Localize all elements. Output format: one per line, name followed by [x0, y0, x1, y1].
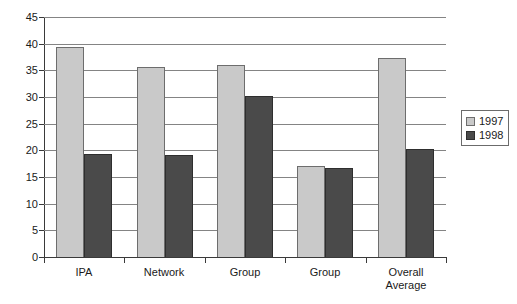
- y-tick-mark-5: [39, 230, 44, 231]
- chart-legend: 19971998: [461, 110, 509, 146]
- legend-item-1998: 1998: [466, 128, 503, 142]
- bar-1997-1: [137, 67, 165, 258]
- bar-1997-4: [378, 58, 406, 258]
- y-tick-label-0: 0: [4, 252, 38, 263]
- bar-chart: 051015202530354045 IPANetworkGroupGroupO…: [0, 0, 517, 304]
- x-tick-mark-0: [44, 257, 45, 263]
- y-tick-label-25: 25: [4, 119, 38, 130]
- legend-swatch-icon-1997: [466, 117, 475, 126]
- x-axis-label-0: IPA: [44, 266, 124, 279]
- y-tick-label-30: 30: [4, 92, 38, 103]
- y-tick-label-40: 40: [4, 39, 38, 50]
- y-tick-label-5: 5: [4, 225, 38, 236]
- x-tick-mark-1: [124, 257, 125, 263]
- y-tick-label-20: 20: [4, 145, 38, 156]
- x-axis-label-1: Network: [124, 266, 204, 279]
- bar-1997-2: [217, 65, 245, 258]
- y-tick-label-10: 10: [4, 199, 38, 210]
- x-tick-mark-5: [446, 257, 447, 263]
- y-tick-label-15: 15: [4, 172, 38, 183]
- y-tick-label-35: 35: [4, 65, 38, 76]
- x-axis-label-4: Overall Average: [366, 266, 446, 292]
- legend-item-1997: 1997: [466, 114, 503, 128]
- y-tick-mark-30: [39, 97, 44, 98]
- y-tick-mark-15: [39, 177, 44, 178]
- y-axis-labels: 051015202530354045: [0, 17, 38, 257]
- y-tick-mark-40: [39, 44, 44, 45]
- legend-swatch-icon-1998: [466, 131, 475, 140]
- bar-1997-0: [56, 47, 84, 258]
- bar-1998-2: [245, 96, 273, 258]
- x-axis-label-3: Group: [285, 266, 365, 279]
- plot-area: [44, 17, 446, 257]
- x-tick-mark-2: [205, 257, 206, 263]
- y-tick-mark-25: [39, 124, 44, 125]
- gridline-45: [44, 17, 446, 18]
- x-tick-mark-4: [366, 257, 367, 263]
- legend-label-1998: 1998: [479, 130, 503, 141]
- bar-1998-4: [406, 149, 434, 258]
- y-tick-label-45: 45: [4, 12, 38, 23]
- y-tick-mark-10: [39, 204, 44, 205]
- y-tick-mark-45: [39, 17, 44, 18]
- legend-label-1997: 1997: [479, 116, 503, 127]
- bar-1998-1: [165, 155, 193, 258]
- bar-1998-0: [84, 154, 112, 258]
- bar-1998-3: [325, 168, 353, 258]
- x-axis-line: [44, 257, 447, 258]
- bar-1997-3: [297, 166, 325, 258]
- x-tick-mark-3: [285, 257, 286, 263]
- x-axis-label-2: Group: [205, 266, 285, 279]
- y-tick-mark-35: [39, 70, 44, 71]
- y-tick-mark-0: [39, 257, 44, 258]
- gridline-40: [44, 44, 446, 45]
- y-tick-mark-20: [39, 150, 44, 151]
